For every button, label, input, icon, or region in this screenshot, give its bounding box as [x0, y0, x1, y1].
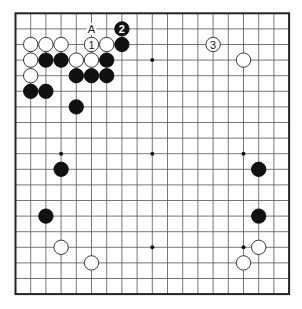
stone-disc	[252, 240, 266, 254]
stone-disc	[54, 37, 68, 51]
white-stone	[84, 53, 98, 67]
stone-disc	[100, 37, 114, 51]
stone-disc	[24, 84, 38, 98]
move-number-label: 2	[119, 23, 125, 35]
black-stone	[39, 209, 53, 223]
markers-layer: A	[87, 23, 97, 36]
stone-disc	[39, 53, 53, 67]
white-stone	[54, 240, 68, 254]
white-stone	[24, 69, 38, 83]
black-stone	[39, 53, 53, 67]
black-stone: 2	[115, 22, 129, 36]
stone-disc	[69, 100, 83, 114]
white-stone	[236, 53, 250, 67]
black-stone	[54, 53, 68, 67]
black-stone	[39, 84, 53, 98]
stone-disc	[54, 162, 68, 176]
star-point	[150, 152, 154, 156]
stone-disc	[100, 53, 114, 67]
white-stone	[54, 37, 68, 51]
black-stone	[24, 84, 38, 98]
stones-layer: 123	[24, 22, 266, 270]
black-stone	[100, 53, 114, 67]
stone-disc	[54, 240, 68, 254]
black-stone	[115, 37, 129, 51]
stone-disc	[24, 69, 38, 83]
white-stone	[236, 256, 250, 270]
stone-disc	[39, 37, 53, 51]
stone-disc	[24, 53, 38, 67]
move-number-label: 1	[88, 39, 94, 51]
white-stone	[24, 53, 38, 67]
move-number-label: 3	[210, 39, 216, 51]
white-stone	[100, 37, 114, 51]
black-stone	[69, 69, 83, 83]
black-stone	[252, 162, 266, 176]
point-marker-label: A	[88, 23, 96, 35]
stone-disc	[84, 256, 98, 270]
go-board: 123 A	[0, 0, 302, 309]
white-stone	[69, 53, 83, 67]
stone-disc	[84, 53, 98, 67]
black-stone	[69, 100, 83, 114]
star-point	[150, 245, 154, 249]
stone-disc	[84, 69, 98, 83]
white-stone	[24, 37, 38, 51]
black-stone	[84, 69, 98, 83]
stone-disc	[100, 69, 114, 83]
stone-disc	[69, 69, 83, 83]
white-stone	[84, 256, 98, 270]
star-point	[59, 152, 63, 156]
stone-disc	[252, 209, 266, 223]
white-stone: 1	[84, 37, 98, 51]
star-point	[242, 152, 246, 156]
white-stone	[39, 37, 53, 51]
stone-disc	[39, 84, 53, 98]
white-stone	[252, 240, 266, 254]
black-stone	[100, 69, 114, 83]
black-stone	[54, 162, 68, 176]
white-stone: 3	[206, 37, 220, 51]
stone-disc	[24, 37, 38, 51]
stone-disc	[236, 53, 250, 67]
stone-disc	[115, 37, 129, 51]
stone-disc	[236, 256, 250, 270]
stone-disc	[54, 53, 68, 67]
star-point	[242, 245, 246, 249]
stone-disc	[252, 162, 266, 176]
black-stone	[252, 209, 266, 223]
star-point	[150, 58, 154, 62]
stone-disc	[69, 53, 83, 67]
stone-disc	[39, 209, 53, 223]
